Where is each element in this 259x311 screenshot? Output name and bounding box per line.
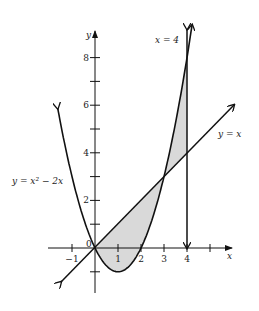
x-tick-label: 1 bbox=[115, 254, 121, 264]
graph: −112342468 y x 0 x = 4 y = x y = x² − 2x bbox=[0, 0, 259, 311]
x-tick-label: 2 bbox=[138, 254, 144, 264]
line-label: y = x bbox=[217, 129, 241, 139]
origin-label: 0 bbox=[86, 239, 92, 249]
x-tick-label: −1 bbox=[65, 254, 78, 264]
y-tick-label: 4 bbox=[83, 148, 89, 158]
line-y-equals-x bbox=[61, 105, 234, 282]
y-tick-label: 6 bbox=[83, 100, 89, 110]
y-tick-label: 8 bbox=[83, 53, 89, 63]
x-tick-label: 3 bbox=[161, 254, 167, 264]
shaded-region bbox=[95, 58, 187, 272]
vertical-line-label: x = 4 bbox=[155, 35, 179, 45]
y-tick-label: 2 bbox=[83, 195, 89, 205]
x-axis-label: x bbox=[227, 251, 232, 261]
parabola-label: y = x² − 2x bbox=[11, 176, 63, 186]
y-axis-label: y bbox=[85, 30, 92, 40]
x-tick-label: 4 bbox=[184, 254, 190, 264]
